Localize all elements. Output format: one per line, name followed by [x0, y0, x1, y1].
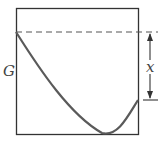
plot-frame: [17, 9, 139, 135]
arrow-down-icon: [147, 91, 153, 99]
gibbs-energy-diagram: [0, 0, 161, 141]
bracket-label: x: [146, 58, 154, 76]
energy-curve: [16, 32, 138, 133]
y-axis-label: G: [3, 62, 15, 80]
arrow-up-icon: [147, 33, 153, 41]
